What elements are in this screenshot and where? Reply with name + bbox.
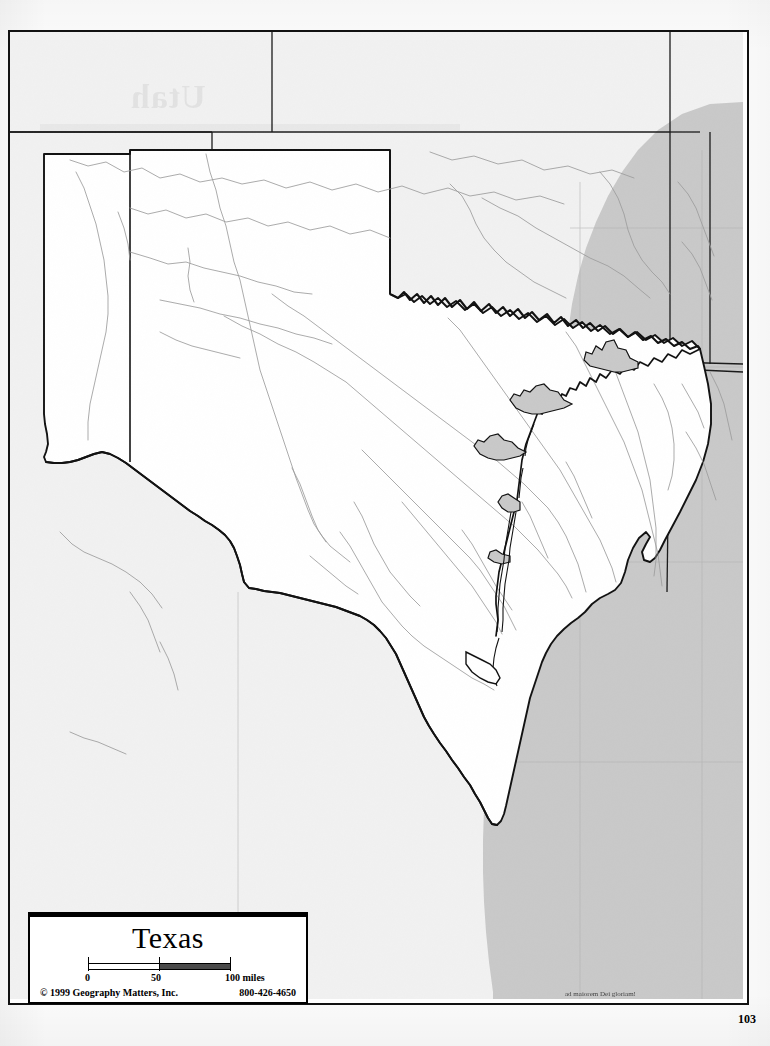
page-canvas: Utah Texas 0 50 100 miles © 1999 Geograp…	[0, 0, 770, 1046]
page-title: Texas	[30, 919, 306, 957]
scale-label-100: 100 miles	[225, 972, 265, 983]
scale-bar-filled-segment	[159, 964, 230, 969]
map-frame: Utah	[8, 30, 749, 1005]
credits-row: © 1999 Geography Matters, Inc. 800-426-4…	[30, 987, 306, 998]
scale-tick-50	[159, 957, 160, 971]
texas-map-graphic	[10, 32, 743, 999]
scale-label-0: 0	[85, 972, 90, 983]
scale-tick-0	[88, 957, 89, 971]
motto-text: ad maiorem Dei gloriam!	[565, 990, 636, 998]
copyright-notice: © 1999 Geography Matters, Inc.	[40, 987, 178, 998]
page-number: 103	[738, 1012, 756, 1027]
map-grain-overlay	[10, 32, 743, 999]
scale-tick-100	[230, 957, 231, 971]
scale-label-50: 50	[151, 972, 161, 983]
map-title-block: Texas 0 50 100 miles © 1999 Geography Ma…	[28, 912, 308, 1004]
phone-number: 800-426-4650	[239, 987, 296, 998]
